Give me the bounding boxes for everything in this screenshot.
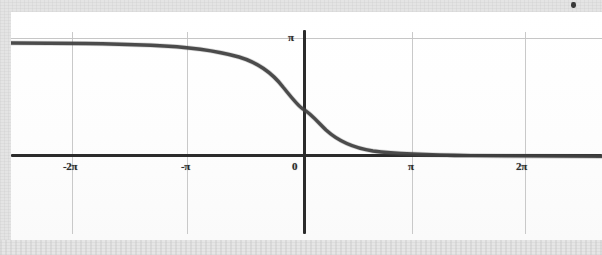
x-tick-label-minus-2pi: -2π bbox=[63, 160, 77, 172]
x-tick-label-pi: π bbox=[408, 160, 414, 172]
figure-panel: -2π -π 0 π 2π π bbox=[11, 12, 602, 240]
arccot-curve bbox=[11, 12, 602, 240]
figure-screenshot: -2π -π 0 π 2π π bbox=[0, 0, 602, 255]
plot-area: -2π -π 0 π 2π π bbox=[11, 12, 602, 240]
scan-speck-artifact bbox=[571, 2, 576, 8]
x-tick-label-zero: 0 bbox=[292, 160, 297, 172]
x-tick-label-minus-pi: -π bbox=[181, 160, 190, 172]
y-tick-label-pi: π bbox=[288, 31, 294, 43]
scan-bottom-band-noise bbox=[0, 240, 602, 255]
x-tick-label-2pi: 2π bbox=[516, 160, 527, 172]
